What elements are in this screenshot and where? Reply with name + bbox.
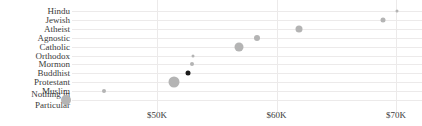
data-point[interactable] xyxy=(380,17,385,22)
data-point[interactable] xyxy=(396,10,399,13)
horizontal-gridline xyxy=(72,20,422,21)
x-axis-tick-label: $70K xyxy=(386,110,406,121)
horizontal-gridline xyxy=(72,91,422,92)
data-point[interactable] xyxy=(61,95,71,105)
y-axis-label: Nothing inParticular xyxy=(0,90,70,110)
x-axis-tick-label: $50K xyxy=(147,110,167,121)
data-point[interactable] xyxy=(168,77,179,88)
horizontal-gridline xyxy=(72,82,422,83)
data-point[interactable] xyxy=(102,89,106,93)
data-point[interactable] xyxy=(254,35,260,41)
horizontal-gridline xyxy=(72,29,422,30)
data-point[interactable] xyxy=(235,42,244,51)
horizontal-gridline xyxy=(72,100,422,101)
data-point[interactable] xyxy=(191,54,194,57)
horizontal-gridline xyxy=(72,56,422,57)
horizontal-gridline xyxy=(72,47,422,48)
data-point[interactable] xyxy=(296,25,303,32)
data-point[interactable] xyxy=(190,62,194,66)
horizontal-gridline xyxy=(72,38,422,39)
dot-plot-chart: HinduJewishAtheistAgnosticCatholicOrthod… xyxy=(0,0,422,126)
y-axis-label-line2: Particular xyxy=(0,101,70,110)
x-axis-tick-label: $60K xyxy=(267,110,287,121)
data-point[interactable] xyxy=(186,71,191,76)
horizontal-gridline xyxy=(72,64,422,65)
plot-area xyxy=(72,0,422,112)
x-axis-tick-labels: $50K$60K$70K xyxy=(72,110,422,126)
horizontal-gridline xyxy=(72,11,422,12)
horizontal-gridline xyxy=(72,73,422,74)
